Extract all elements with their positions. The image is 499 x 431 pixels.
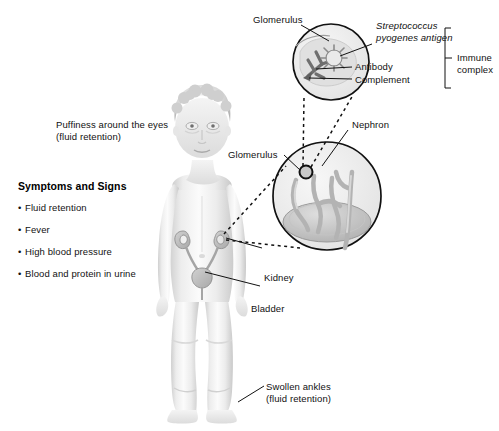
nephron-inset [273,142,381,250]
label-nephron: Nephron [352,119,389,131]
bladder-organ [192,268,212,288]
label-swollen-ankles-line2: (fluid retention) [266,393,331,405]
symptoms-heading: Symptoms and Signs [18,180,168,192]
right-leg [205,300,233,414]
left-ear [173,126,179,136]
symptom-item: Fever [18,224,168,235]
child-body-illustration [156,84,247,424]
label-antigen-line1: Streptococcus [376,20,438,32]
left-foot [167,410,198,424]
label-swollen-ankles-line1: Swollen ankles [266,381,331,393]
label-kidney: Kidney [264,272,294,284]
left-hand [156,296,168,317]
label-bladder: Bladder [251,303,284,315]
label-glomerulus-mid: Glomerulus [228,149,278,161]
right-hand [236,296,248,317]
label-antibody: Antibody [355,61,393,73]
glomerulus-marker [300,166,313,179]
left-leg [171,300,199,414]
symptom-item: Fluid retention [18,202,168,213]
label-puffiness-line1: Puffiness around the eyes [56,119,168,131]
right-ear [225,126,231,136]
label-antigen-line2: pyogenes antigen [376,32,453,44]
label-immune-complex-line2: complex [457,64,493,76]
leader-swollen-ankles [238,386,264,402]
label-immune-complex-line1: Immune [457,52,492,64]
neck [186,160,220,185]
symptom-item: High blood pressure [18,246,168,257]
label-complement: Complement [355,74,410,86]
symptoms-and-signs-block: Symptoms and Signs Fluid retention Fever… [18,180,168,290]
right-foot [206,410,237,424]
label-puffiness-line2: (fluid retention) [56,131,121,143]
symptom-item: Blood and protein in urine [18,268,168,279]
navel [199,254,205,258]
label-glomerulus-top: Glomerulus [253,14,303,26]
